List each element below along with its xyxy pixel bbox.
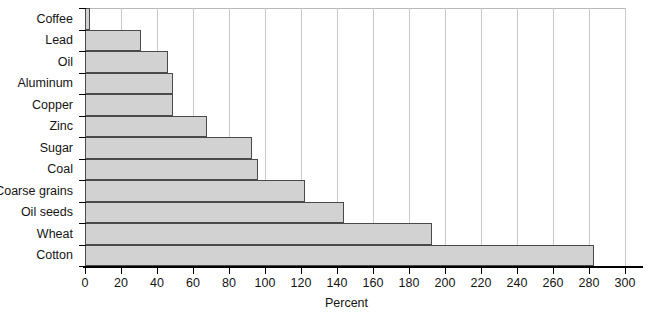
category-label-aluminum: Aluminum bbox=[17, 76, 73, 90]
category-label-wheat: Wheat bbox=[37, 227, 73, 241]
x-tick-20 bbox=[121, 268, 122, 274]
x-tick-260 bbox=[553, 268, 554, 274]
x-tick-label-200: 200 bbox=[425, 276, 465, 290]
y-tick-5 bbox=[79, 116, 86, 117]
y-tick-0 bbox=[79, 8, 86, 9]
category-label-coarse-grains: Coarse grains bbox=[0, 184, 73, 198]
bar-row bbox=[85, 116, 625, 138]
bar-chart: CoffeeLeadOilAluminumCopperZincSugarCoal… bbox=[0, 0, 653, 319]
y-tick-4 bbox=[79, 94, 86, 95]
x-tick-80 bbox=[229, 268, 230, 274]
x-tick-label-20: 20 bbox=[101, 276, 141, 290]
bar-sugar bbox=[85, 137, 252, 159]
bar-lead bbox=[85, 30, 141, 52]
x-tick-label-180: 180 bbox=[389, 276, 429, 290]
category-label-sugar: Sugar bbox=[40, 141, 73, 155]
x-tick-label-100: 100 bbox=[245, 276, 285, 290]
y-tick-12 bbox=[79, 266, 86, 267]
y-tick-7 bbox=[79, 159, 86, 160]
bar-coarse-grains bbox=[85, 180, 305, 202]
y-tick-6 bbox=[79, 137, 86, 138]
x-tick-label-240: 240 bbox=[497, 276, 537, 290]
y-tick-8 bbox=[79, 180, 86, 181]
y-tick-1 bbox=[79, 30, 86, 31]
bar-row bbox=[85, 180, 625, 202]
x-tick-label-140: 140 bbox=[317, 276, 357, 290]
category-label-cotton: Cotton bbox=[36, 248, 73, 262]
category-label-lead: Lead bbox=[45, 33, 73, 47]
bar-oil bbox=[85, 51, 168, 73]
bar-aluminum bbox=[85, 73, 173, 95]
bar-zinc bbox=[85, 116, 207, 138]
y-tick-10 bbox=[79, 223, 86, 224]
x-tick-180 bbox=[409, 268, 410, 274]
bar-row bbox=[85, 202, 625, 224]
category-label-oil-seeds: Oil seeds bbox=[21, 205, 73, 219]
category-label-coffee: Coffee bbox=[36, 12, 73, 26]
x-tick-160 bbox=[373, 268, 374, 274]
bar-copper bbox=[85, 94, 173, 116]
x-tick-label-60: 60 bbox=[173, 276, 213, 290]
bar-wheat bbox=[85, 223, 432, 245]
x-tick-label-260: 260 bbox=[533, 276, 573, 290]
gridline-300 bbox=[625, 8, 626, 266]
x-tick-label-80: 80 bbox=[209, 276, 249, 290]
bar-row bbox=[85, 245, 625, 267]
x-tick-label-0: 0 bbox=[65, 276, 105, 290]
bar-coal bbox=[85, 159, 258, 181]
x-tick-label-220: 220 bbox=[461, 276, 501, 290]
x-tick-240 bbox=[517, 268, 518, 274]
x-tick-60 bbox=[193, 268, 194, 274]
y-tick-11 bbox=[79, 245, 86, 246]
y-tick-3 bbox=[79, 73, 86, 74]
x-tick-280 bbox=[589, 268, 590, 274]
plot-area bbox=[85, 8, 625, 266]
y-tick-9 bbox=[79, 202, 86, 203]
bar-coffee bbox=[85, 8, 90, 30]
category-label-oil: Oil bbox=[58, 55, 73, 69]
bar-row bbox=[85, 30, 625, 52]
category-label-coal: Coal bbox=[47, 162, 73, 176]
x-tick-100 bbox=[265, 268, 266, 274]
bar-row bbox=[85, 159, 625, 181]
category-axis: CoffeeLeadOilAluminumCopperZincSugarCoal… bbox=[0, 8, 80, 266]
x-axis-title-label: Percent bbox=[325, 296, 368, 310]
bar-oil-seeds bbox=[85, 202, 344, 224]
bars-group bbox=[85, 8, 625, 266]
bar-row bbox=[85, 94, 625, 116]
x-tick-40 bbox=[157, 268, 158, 274]
y-tick-2 bbox=[79, 51, 86, 52]
x-tick-0 bbox=[85, 268, 86, 274]
x-tick-120 bbox=[301, 268, 302, 274]
bar-row bbox=[85, 223, 625, 245]
bar-row bbox=[85, 73, 625, 95]
x-tick-label-40: 40 bbox=[137, 276, 177, 290]
bar-row bbox=[85, 51, 625, 73]
x-axis-baseline bbox=[83, 266, 643, 268]
x-axis-title: Percent bbox=[0, 296, 653, 310]
category-label-zinc: Zinc bbox=[49, 119, 73, 133]
x-tick-label-160: 160 bbox=[353, 276, 393, 290]
x-tick-140 bbox=[337, 268, 338, 274]
bar-row bbox=[85, 8, 625, 30]
category-label-copper: Copper bbox=[32, 98, 73, 112]
x-tick-label-120: 120 bbox=[281, 276, 321, 290]
x-tick-200 bbox=[445, 268, 446, 274]
x-tick-220 bbox=[481, 268, 482, 274]
x-tick-label-280: 280 bbox=[569, 276, 609, 290]
bar-row bbox=[85, 137, 625, 159]
x-tick-300 bbox=[625, 268, 626, 274]
x-tick-label-300: 300 bbox=[605, 276, 645, 290]
bar-cotton bbox=[85, 245, 594, 267]
